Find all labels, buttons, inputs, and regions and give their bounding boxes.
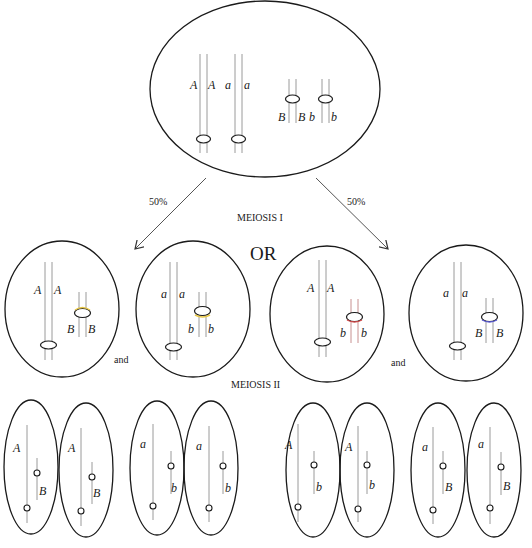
centromere-red [347,313,363,322]
allele-label: a [196,439,202,453]
allele-label: a [161,287,167,301]
allele-label: b [208,322,214,336]
allele-label: B [278,110,286,124]
allele-label: a [478,437,484,451]
chromosome-a: a a [225,54,250,153]
meiosis1-cell-4: a a B B [409,245,523,381]
allele-label: B [503,479,511,493]
chromosome-B: B B [278,79,306,124]
allele-label: A [33,283,42,297]
allele-label: B [496,326,504,340]
allele-label: a [225,78,231,92]
centromere [41,341,57,349]
allele-label: B [88,322,96,336]
and-label-left: and [114,354,128,365]
allele-label: A [344,440,353,454]
chromosome-b: b b [309,79,337,124]
allele-label: b [225,481,231,495]
gamete-8: a B [467,403,521,537]
parent-cell-outline [150,1,380,177]
allele-label: A [12,441,21,455]
allele-label: A [284,438,293,452]
allele-label: b [369,478,375,492]
meiosis1-cell-3: A A b b [270,246,384,382]
allele-label: A [326,281,335,295]
allele-label: B [475,326,483,340]
centromere [166,343,182,351]
arrow-right [316,178,388,249]
meiosis-1-label: MEIOSIS I [237,212,283,223]
allele-label: b [331,110,337,124]
gamete-1: A B [4,400,58,534]
meiosis-diagram: A A a a B B b b 50% 50% ME [0,0,532,548]
chromosome-A: A A [189,54,216,153]
allele-label: B [93,486,101,500]
gamete-6: A b [340,403,394,537]
allele-label: B [298,110,306,124]
centromere [232,135,246,143]
and-label-right: and [391,357,405,368]
allele-label: B [445,480,453,494]
percent-left-label: 50% [149,196,167,207]
centromere-yellow [75,309,91,318]
parent-cell: A A a a B B b b [150,1,380,177]
allele-label: b [340,326,346,340]
centromere [450,342,466,350]
centromere-yellow [195,307,211,316]
allele-label: a [244,78,250,92]
allele-label: b [316,480,322,494]
allele-label: B [67,322,75,336]
meiosis1-cell-1: A A B B [5,241,119,377]
allele-label: A [306,281,315,295]
allele-label: b [188,322,194,336]
centromere-blue [482,313,498,322]
arrow-left [135,178,206,249]
allele-label: b [309,110,315,124]
allele-label: b [361,326,367,340]
allele-label: a [443,286,449,300]
centromere [197,135,211,143]
meiosis1-cell-2: a a b b [136,241,250,377]
gamete-5: A b [284,403,340,537]
allele-label: a [422,440,428,454]
allele-label: A [53,283,62,297]
allele-label: B [39,484,47,498]
allele-label: a [179,287,185,301]
or-label: OR [250,243,277,264]
percent-right-label: 50% [347,196,365,207]
centromere [319,95,333,103]
allele-label: A [189,78,198,92]
allele-label: a [140,437,146,451]
meiosis-2-label: MEIOSIS II [231,379,280,390]
gamete-4: a b [184,401,238,535]
gamete-2: A B [59,403,113,537]
allele-label: A [207,78,216,92]
centromere [286,95,300,103]
allele-label: b [171,481,177,495]
gamete-7: a B [411,403,465,537]
centromere [315,338,331,346]
allele-label: a [462,286,468,300]
allele-label: A [67,441,76,455]
gamete-3: a b [130,401,184,535]
